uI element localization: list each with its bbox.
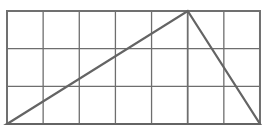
grid-border <box>7 11 260 124</box>
grid-triangle-diagram <box>0 0 265 131</box>
grid-lines <box>7 11 260 124</box>
triangle-shape <box>7 11 260 124</box>
